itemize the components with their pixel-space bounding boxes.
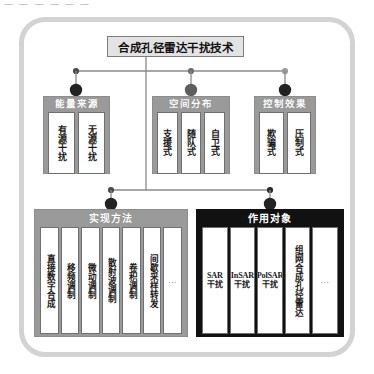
cell-active-jamming[interactable]: 有源干扰 [48, 112, 75, 174]
group-energy-source-title: 能量来源 [44, 97, 109, 112]
group-implementation-methods-title: 实现方法 [35, 210, 187, 227]
root-title-box[interactable]: 合成孔径雷达干扰技术 [107, 36, 244, 57]
cell-escort[interactable]: 随队式 [181, 112, 202, 174]
cell-sar-jamming[interactable]: SAR 干扰 [202, 227, 228, 334]
cell-insar-jamming[interactable]: InSAR 干扰 [230, 227, 256, 334]
cell-scattered-wave-modulation[interactable]: 散射波调制 [102, 227, 121, 334]
group-implementation-methods-cells: 直接数字合成 移频调制 微动调制 散射波调制 卷积调制 间歇采样转发 … [35, 227, 187, 340]
group-target-objects[interactable]: 作用对象 SAR 干扰 InSAR 干扰 PolSAR 干扰 组网合成孔径雷达 … [196, 209, 344, 337]
group-energy-source-cells: 有源干扰 无源干扰 [44, 112, 109, 178]
cell-suppression[interactable]: 压制式 [287, 112, 312, 174]
cell-polsar-jamming[interactable]: PolSAR 干扰 [257, 227, 283, 334]
root-title-label: 合成孔径雷达干扰技术 [118, 39, 233, 55]
group-control-effect-cells: 欺骗式 压制式 [255, 112, 315, 178]
cell-deception[interactable]: 欺骗式 [259, 112, 284, 174]
group-spatial-distribution-cells: 支援式 随队式 自卫式 [153, 112, 229, 178]
group-implementation-methods[interactable]: 实现方法 直接数字合成 移频调制 微动调制 散射波调制 卷积调制 间歇采样转发 … [34, 209, 188, 337]
group-target-objects-title: 作用对象 [197, 210, 343, 227]
cell-micro-motion-modulation[interactable]: 微动调制 [81, 227, 100, 334]
group-target-objects-cells: SAR 干扰 InSAR 干扰 PolSAR 干扰 组网合成孔径雷达 … [197, 227, 343, 340]
cell-networked-sar[interactable]: 组网合成孔径雷达 [285, 227, 311, 334]
cell-convolution-modulation[interactable]: 卷积调制 [122, 227, 141, 334]
group-energy-source[interactable]: 能量来源 有源干扰 无源干扰 [43, 96, 110, 174]
diagram-canvas: 合成孔径雷达干扰技术 能量来源 有源干扰 无源干扰 空间分布 支援式 随队式 自… [0, 0, 374, 374]
group-spatial-distribution[interactable]: 空间分布 支援式 随队式 自卫式 [152, 96, 230, 174]
cell-direct-digital-synthesis[interactable]: 直接数字合成 [40, 227, 59, 334]
cell-method-ellipsis: … [163, 227, 182, 334]
cell-intermittent-sampling-repeater[interactable]: 间歇采样转发 [143, 227, 162, 334]
group-control-effect-title: 控制效果 [255, 97, 315, 112]
group-spatial-distribution-title: 空间分布 [153, 97, 229, 112]
cell-polsar-label: 干扰 [262, 281, 278, 289]
group-control-effect[interactable]: 控制效果 欺骗式 压制式 [254, 96, 316, 174]
cell-frequency-shift-modulation[interactable]: 移频调制 [61, 227, 80, 334]
cell-sar-label: 干扰 [207, 281, 223, 289]
cell-target-ellipsis: … [312, 227, 338, 334]
cell-passive-jamming[interactable]: 无源干扰 [78, 112, 105, 174]
cell-standoff[interactable]: 支援式 [157, 112, 178, 174]
cell-self-protection[interactable]: 自卫式 [204, 112, 225, 174]
cell-insar-label: 干扰 [234, 281, 250, 289]
